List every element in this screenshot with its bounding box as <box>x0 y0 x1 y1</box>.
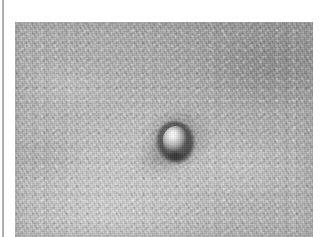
clinical-photograph-figure <box>15 22 313 237</box>
left-margin-rule <box>2 0 4 237</box>
lesion-specular-highlight <box>168 129 179 141</box>
lesion-lower-notch-shadow <box>167 152 184 161</box>
skin-photograph-image <box>15 22 313 237</box>
page-canvas <box>0 0 330 237</box>
